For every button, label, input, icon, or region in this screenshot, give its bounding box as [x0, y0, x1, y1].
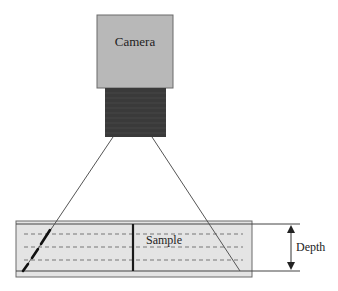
camera-lens — [105, 88, 166, 137]
depth-arrow — [287, 225, 295, 270]
sample-label: Sample — [146, 233, 182, 248]
depth-label: Depth — [296, 240, 325, 255]
arrow-up-icon — [287, 225, 295, 233]
camera-label: Camera — [97, 34, 173, 50]
camera-body — [97, 15, 173, 88]
arrow-down-icon — [287, 262, 295, 270]
